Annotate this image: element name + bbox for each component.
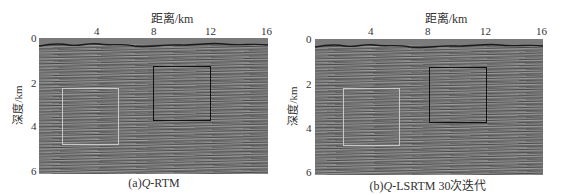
y-tick-2: 2 — [31, 77, 37, 89]
y-tick-2: 2 — [306, 78, 312, 90]
y-tick-4: 4 — [31, 120, 37, 132]
y-tick-0: 0 — [31, 32, 37, 44]
caption-suffix: -RTM — [150, 176, 179, 190]
x-tick-16: 16 — [261, 25, 272, 37]
caption-suffix: -LSRTM 30次迭代 — [392, 179, 486, 193]
y-tick-0: 0 — [306, 33, 312, 45]
caption-italic: Q — [384, 179, 393, 193]
caption-b: (b)Q-LSRTM 30次迭代 — [328, 176, 528, 194]
x-tick-8: 8 — [151, 25, 157, 37]
x-tick-12: 12 — [205, 25, 216, 37]
dark-highlight-box — [429, 67, 487, 123]
dark-highlight-box — [153, 66, 211, 121]
caption-prefix: (a) — [128, 176, 141, 190]
x-tick-8: 8 — [425, 25, 431, 37]
caption-prefix: (b) — [370, 179, 384, 193]
caption-a: (a)Q-RTM — [54, 176, 254, 191]
seafloor-line — [315, 39, 543, 53]
panel-a: 距离/km 4 8 12 16 0 2 4 6 深度/km (a)Q-RTM — [0, 0, 282, 195]
light-highlight-box — [343, 88, 400, 146]
y-axis-title: 深度/km — [9, 75, 25, 135]
seismic-image-a — [39, 38, 268, 174]
light-highlight-box — [62, 88, 119, 145]
x-tick-12: 12 — [480, 25, 491, 37]
x-tick-16: 16 — [536, 25, 547, 37]
y-tick-6: 6 — [306, 166, 312, 178]
x-tick-4: 4 — [94, 25, 100, 37]
x-tick-4: 4 — [368, 25, 374, 37]
y-tick-6: 6 — [31, 165, 37, 177]
seismic-image-b — [315, 39, 543, 175]
y-axis-title: 深度/km — [284, 76, 300, 136]
panel-b: 距离/km 4 8 12 16 0 2 4 6 深度/km (b)Q-LSRTM… — [276, 0, 558, 195]
y-tick-4: 4 — [306, 122, 312, 134]
seafloor-line — [39, 38, 268, 52]
